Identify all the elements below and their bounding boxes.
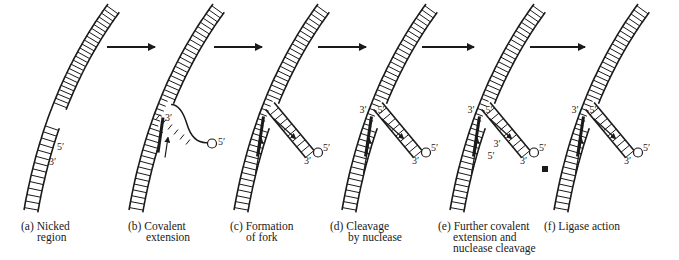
base-pair-rung [411,27,423,35]
base-pair-rung [67,73,80,79]
label-5-prime: 5′ [57,141,64,152]
base-pair-rung [282,62,295,68]
base-pair-rung [182,53,194,60]
base-pair-rung [166,85,179,91]
base-pair-rung [403,39,415,46]
displaced-duplex-rung [513,140,521,147]
label-5-prime: 5′ [218,136,225,147]
template-strand [129,4,213,210]
base-pair-rung [598,71,611,77]
caption-e: (e) Further covalentextension andnucleas… [438,221,536,254]
base-pair-rung [141,156,155,160]
base-pair-rung [132,196,146,199]
base-pair-rung [236,202,250,205]
base-pair-rung [185,48,197,55]
base-pair-rung [137,173,151,176]
base-pair-rung [295,39,307,46]
base-pair-rung [516,31,528,38]
base-pair-rung [175,66,188,72]
panel-f: 5′3′3′5′ [542,4,650,212]
base-pair-rung [556,202,570,205]
base-pair-rung [131,202,145,205]
base-pair-rung [143,150,156,154]
base-pair-rung [452,202,466,205]
label-3-prime: 3′ [360,104,367,115]
caption-b-line2: extension [128,231,190,243]
base-pair-rung [61,85,74,91]
base-pair-rung [496,66,509,72]
base-pair-rung [164,90,177,96]
base-pair-rung [498,62,511,68]
base-pair-rung [34,163,48,167]
base-pair-rung [351,167,365,170]
panel-b: 5′3′ [129,4,225,212]
displaced-duplex-rung [517,145,525,152]
displaced-duplex-rung [612,135,620,142]
caption-a-line2: region [21,231,66,243]
template-strand [234,4,318,210]
label-3-prime: 3′ [49,156,56,167]
displaced-duplex-rung [617,140,625,147]
base-pair-rung [400,44,412,51]
base-pair-rung [177,62,190,68]
blocked-5-prime-end-circle [208,139,217,148]
label-5-prime: 5′ [488,150,495,161]
base-pair-rung [459,167,473,170]
base-pair-rung [33,169,47,172]
label-3-prime: 3′ [304,155,311,166]
base-pair-rung [180,57,192,64]
label-5-prime: 5′ [323,142,330,153]
base-pair-rung [494,71,507,77]
base-pair-rung [612,44,624,51]
unpaired-base [155,114,162,117]
base-pair-rung [395,53,407,60]
base-pair-rung [375,94,388,99]
caption-f-line1: (f) Ligase action [544,220,620,232]
label-3-prime: 3′ [624,155,631,166]
base-pair-rung [54,103,67,108]
base-pair-rung [26,201,40,204]
base-pair-rung [290,48,302,55]
base-pair-rung [346,190,360,193]
base-pair-rung [615,39,627,46]
blocked-5-prime-end-circle [314,148,323,157]
base-pair-rung [596,76,609,82]
unpaired-base [266,99,273,102]
base-pair-rung [501,57,513,64]
base-pair-rung [565,161,579,165]
base-pair-rung [267,94,280,99]
base-pair-rung [467,139,480,143]
label-5-prime: 5′ [431,142,438,153]
base-pair-rung [285,57,297,64]
unpaired-base [186,140,190,145]
base-pair-rung [623,27,635,35]
blocked-5-prime-end-circle [530,148,539,157]
panel-a: 5′3′ [24,4,119,212]
base-pair-rung [168,80,181,86]
caption-c: (c) Formationof fork [230,221,294,243]
base-pair-rung [129,208,143,211]
base-pair-rung [133,190,147,193]
base-pair-rung [485,90,498,96]
base-pair-rung [242,173,256,176]
base-pair-rung [589,90,602,96]
base-pair-rung [453,196,467,199]
base-pair-rung [273,80,286,86]
base-pair-rung [71,64,84,70]
base-pair-rung [379,85,392,91]
lower-strand [143,145,159,212]
base-pair-rung [41,138,54,142]
panel-c: 5′3′ [234,4,330,212]
panel-e: 5′3′3′5′3′5′ [450,4,546,212]
base-pair-rung [38,150,52,154]
base-pair-rung [30,182,44,185]
base-pair-rung [251,139,264,143]
label-3-prime: 3′ [494,138,501,149]
base-pair-rung [276,76,289,82]
unpaired-base [580,114,587,117]
base-pair-rung [607,53,619,60]
base-pair-rung [563,167,577,170]
unpaired-base [151,124,158,127]
displaced-duplex-rung [283,124,291,131]
base-pair-rung [24,208,38,211]
